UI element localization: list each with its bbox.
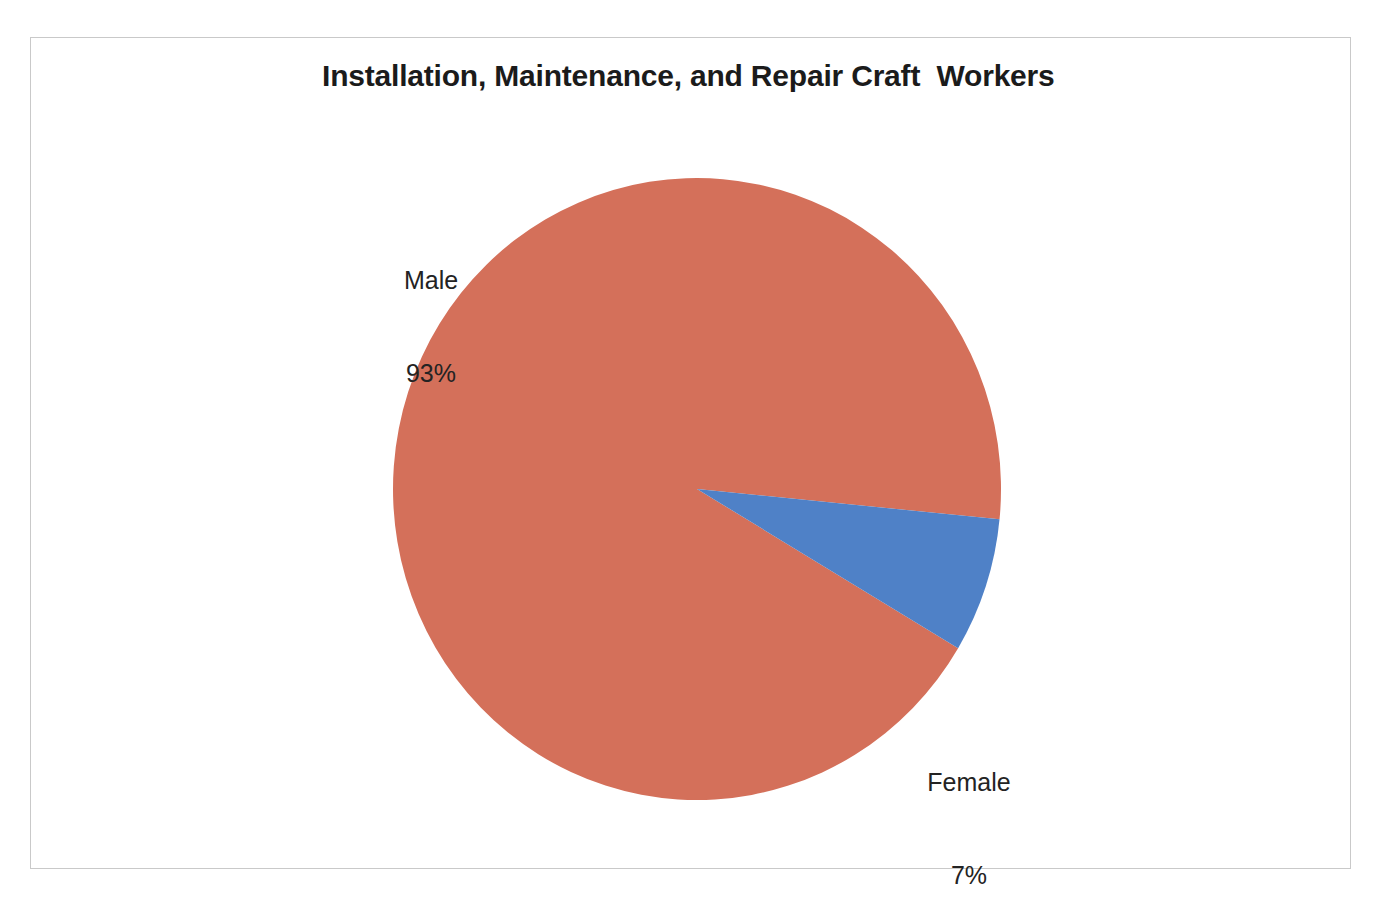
chart-page-frame — [30, 37, 1351, 869]
pie-label-female-name: Female — [904, 767, 1034, 798]
pie-label-male-value: 93% — [366, 358, 496, 389]
pie-label-male-name: Male — [366, 265, 496, 296]
chart-title: Installation, Maintenance, and Repair Cr… — [322, 58, 1062, 94]
pie-label-female-value: 7% — [904, 860, 1034, 891]
pie-label-male: Male 93% — [366, 203, 496, 420]
pie-label-female: Female 7% — [904, 705, 1034, 897]
